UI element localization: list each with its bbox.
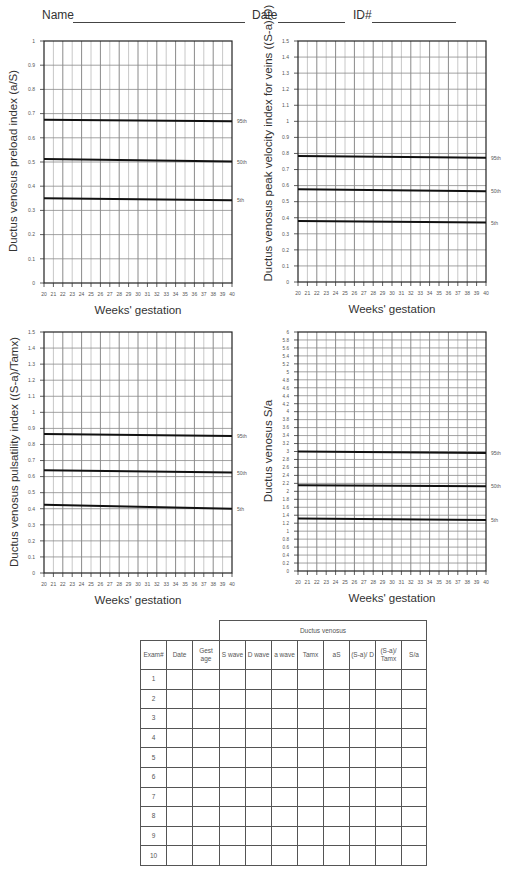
table-cell[interactable] — [220, 709, 246, 729]
table-cell[interactable] — [220, 670, 246, 690]
table-cell[interactable] — [324, 709, 350, 729]
table-cell[interactable] — [402, 767, 427, 787]
table-cell[interactable] — [298, 670, 324, 690]
table-cell[interactable] — [298, 709, 324, 729]
table-cell[interactable] — [167, 709, 193, 729]
table-cell[interactable] — [220, 728, 246, 748]
table-cell[interactable] — [402, 826, 427, 846]
table-cell[interactable] — [324, 846, 350, 866]
table-cell[interactable] — [324, 787, 350, 807]
table-cell[interactable] — [324, 767, 350, 787]
table-cell[interactable] — [298, 826, 324, 846]
table-cell[interactable] — [298, 787, 324, 807]
table-cell[interactable] — [376, 748, 402, 768]
table-cell[interactable] — [376, 689, 402, 709]
table-cell[interactable] — [376, 787, 402, 807]
table-cell[interactable] — [193, 787, 220, 807]
table-cell[interactable] — [167, 767, 193, 787]
table-cell[interactable] — [298, 807, 324, 827]
table-cell[interactable] — [193, 728, 220, 748]
table-cell[interactable] — [220, 748, 246, 768]
table-cell[interactable] — [376, 826, 402, 846]
table-cell[interactable] — [272, 709, 298, 729]
table-cell[interactable] — [272, 748, 298, 768]
table-cell[interactable] — [402, 846, 427, 866]
table-cell[interactable] — [246, 767, 272, 787]
table-cell[interactable] — [324, 748, 350, 768]
table-cell[interactable] — [402, 689, 427, 709]
table-cell[interactable] — [220, 807, 246, 827]
table-cell[interactable] — [167, 807, 193, 827]
table-cell[interactable] — [167, 787, 193, 807]
table-cell[interactable] — [246, 709, 272, 729]
table-cell[interactable] — [324, 728, 350, 748]
table-cell[interactable] — [167, 670, 193, 690]
table-cell[interactable] — [272, 807, 298, 827]
table-cell[interactable] — [246, 826, 272, 846]
table-cell[interactable] — [324, 670, 350, 690]
table-cell[interactable] — [350, 709, 376, 729]
table-cell[interactable] — [246, 807, 272, 827]
table-cell[interactable] — [193, 748, 220, 768]
table-cell[interactable] — [350, 767, 376, 787]
table-cell[interactable] — [272, 846, 298, 866]
table-cell[interactable] — [350, 689, 376, 709]
table-cell[interactable] — [324, 689, 350, 709]
table-cell[interactable] — [298, 689, 324, 709]
table-cell[interactable] — [298, 728, 324, 748]
table-cell[interactable] — [298, 767, 324, 787]
table-cell[interactable] — [402, 748, 427, 768]
table-cell[interactable] — [402, 807, 427, 827]
table-cell[interactable] — [272, 787, 298, 807]
table-cell[interactable] — [167, 846, 193, 866]
table-cell[interactable] — [193, 826, 220, 846]
table-cell[interactable] — [272, 728, 298, 748]
table-cell[interactable] — [246, 846, 272, 866]
table-cell[interactable] — [350, 846, 376, 866]
table-cell[interactable] — [193, 709, 220, 729]
table-cell[interactable] — [246, 670, 272, 690]
table-cell[interactable] — [246, 728, 272, 748]
table-cell[interactable] — [246, 689, 272, 709]
table-cell[interactable] — [298, 748, 324, 768]
table-cell[interactable] — [220, 846, 246, 866]
table-cell[interactable] — [324, 826, 350, 846]
table-cell[interactable] — [402, 670, 427, 690]
table-cell[interactable] — [220, 826, 246, 846]
table-cell[interactable] — [350, 748, 376, 768]
table-cell[interactable] — [324, 807, 350, 827]
table-cell[interactable] — [220, 689, 246, 709]
table-cell[interactable] — [167, 728, 193, 748]
table-cell[interactable] — [350, 826, 376, 846]
table-cell[interactable] — [220, 787, 246, 807]
table-cell[interactable] — [350, 807, 376, 827]
table-cell[interactable] — [350, 670, 376, 690]
table-cell[interactable] — [402, 728, 427, 748]
table-cell[interactable] — [402, 787, 427, 807]
table-cell[interactable] — [193, 846, 220, 866]
table-cell[interactable] — [193, 670, 220, 690]
table-cell[interactable] — [272, 670, 298, 690]
table-cell[interactable] — [376, 846, 402, 866]
table-cell[interactable] — [376, 728, 402, 748]
table-cell[interactable] — [272, 767, 298, 787]
table-cell[interactable] — [402, 709, 427, 729]
table-cell[interactable] — [350, 787, 376, 807]
table-cell[interactable] — [376, 807, 402, 827]
table-cell[interactable] — [167, 689, 193, 709]
table-cell[interactable] — [246, 748, 272, 768]
table-cell[interactable] — [376, 670, 402, 690]
table-cell[interactable] — [272, 689, 298, 709]
table-cell[interactable] — [246, 787, 272, 807]
table-cell[interactable] — [350, 728, 376, 748]
table-cell[interactable] — [193, 689, 220, 709]
table-cell[interactable] — [376, 767, 402, 787]
table-cell[interactable] — [193, 767, 220, 787]
table-cell[interactable] — [167, 826, 193, 846]
table-cell[interactable] — [193, 807, 220, 827]
table-cell[interactable] — [272, 826, 298, 846]
table-cell[interactable] — [298, 846, 324, 866]
table-cell[interactable] — [220, 767, 246, 787]
table-cell[interactable] — [167, 748, 193, 768]
table-cell[interactable] — [376, 709, 402, 729]
